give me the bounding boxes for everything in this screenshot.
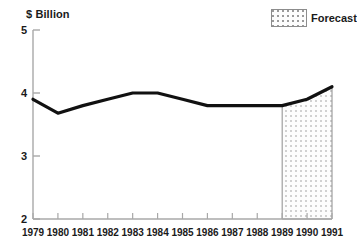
x-tick-label-1985: 1985 <box>171 227 194 238</box>
x-tick-label-1980: 1980 <box>47 227 70 238</box>
x-tick-label-1979: 1979 <box>22 227 45 238</box>
x-tick-label-1991: 1991 <box>321 227 344 238</box>
x-tick-label-1988: 1988 <box>246 227 269 238</box>
forecast-region <box>282 87 332 219</box>
x-tick-label-1982: 1982 <box>97 227 120 238</box>
x-tick-label-1981: 1981 <box>72 227 95 238</box>
x-tick-label-1983: 1983 <box>122 227 145 238</box>
y-tick-label-4: 4 <box>21 87 28 99</box>
y-tick-label-5: 5 <box>21 24 27 36</box>
x-tick-label-1989: 1989 <box>271 227 294 238</box>
y-tick-label-2: 2 <box>21 213 27 225</box>
x-tick-label-1984: 1984 <box>146 227 169 238</box>
x-tick-label-1986: 1986 <box>196 227 219 238</box>
x-tick-label-1990: 1990 <box>296 227 319 238</box>
x-tick-label-1987: 1987 <box>221 227 244 238</box>
y-tick-label-3: 3 <box>21 150 27 162</box>
